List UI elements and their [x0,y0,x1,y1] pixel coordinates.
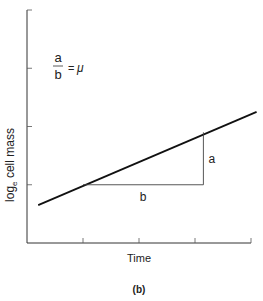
growth-line [38,112,256,205]
formula-mu: μ [76,61,84,75]
panel-label: (b) [133,284,146,295]
y-axis-label-log: log [3,186,17,202]
y-axis-label-rest: cell mass [3,128,17,181]
run-label: b [140,190,147,204]
x-axis-label: Time [127,252,151,264]
formula-equals: = [68,62,74,74]
y-axis-label: loge cell mass [3,128,19,202]
growth-chart: ab a b = μ loge cell mass Time (b) [0,0,263,301]
rise-label: a [208,152,215,166]
formula-numerator: a [54,50,62,65]
formula-denominator: b [54,67,61,82]
